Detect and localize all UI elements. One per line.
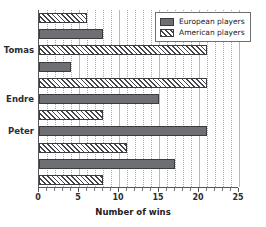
bar [39, 110, 103, 120]
bar [39, 159, 175, 169]
x-tick [134, 188, 135, 191]
x-tick [230, 188, 231, 191]
x-tick-label: 20 [192, 193, 203, 202]
x-tick [110, 188, 111, 191]
bar [39, 29, 103, 39]
x-tick [222, 188, 223, 191]
x-tick [198, 188, 199, 192]
x-tick [182, 188, 183, 191]
legend-item-american[interactable]: American players [160, 27, 245, 38]
x-tick [214, 188, 215, 191]
x-tick-label: 10 [112, 193, 123, 202]
bar [39, 62, 71, 72]
bar [39, 126, 207, 136]
x-tick [166, 188, 167, 191]
bar [39, 175, 103, 185]
x-tick [86, 188, 87, 191]
bar [39, 45, 207, 55]
hatched-swatch-icon [160, 29, 174, 37]
x-tick [62, 188, 63, 191]
solid-swatch-icon [160, 18, 174, 26]
x-tick [54, 188, 55, 191]
legend-label-american: American players [179, 28, 245, 38]
x-tick [142, 188, 143, 191]
x-tick [46, 188, 47, 191]
x-tick [238, 188, 239, 192]
y-tick-label: Peter [8, 126, 34, 136]
bar [39, 94, 159, 104]
x-tick-label: 25 [232, 193, 243, 202]
bar [39, 143, 127, 153]
bar-chart: 0510152025 TomasEndrePeter Number of win… [0, 0, 266, 227]
x-tick-label: 15 [152, 193, 163, 202]
x-tick [94, 188, 95, 191]
legend-label-european: European players [179, 17, 245, 27]
bar [39, 78, 207, 88]
x-tick [150, 188, 151, 191]
x-tick-label: 0 [35, 193, 41, 202]
x-tick [174, 188, 175, 191]
x-tick [158, 188, 159, 192]
x-tick-label: 5 [75, 193, 81, 202]
x-tick [38, 188, 39, 192]
x-tick [102, 188, 103, 191]
legend: European players American players [155, 12, 251, 42]
x-tick [126, 188, 127, 191]
bar [39, 13, 87, 23]
legend-item-european[interactable]: European players [160, 16, 245, 27]
y-tick-label: Endre [6, 94, 34, 104]
x-tick [190, 188, 191, 191]
x-tick [206, 188, 207, 191]
x-tick [70, 188, 71, 191]
x-axis-label: Number of wins [0, 207, 266, 217]
x-tick [118, 188, 119, 192]
y-tick-label: Tomas [4, 45, 34, 55]
x-tick [78, 188, 79, 192]
